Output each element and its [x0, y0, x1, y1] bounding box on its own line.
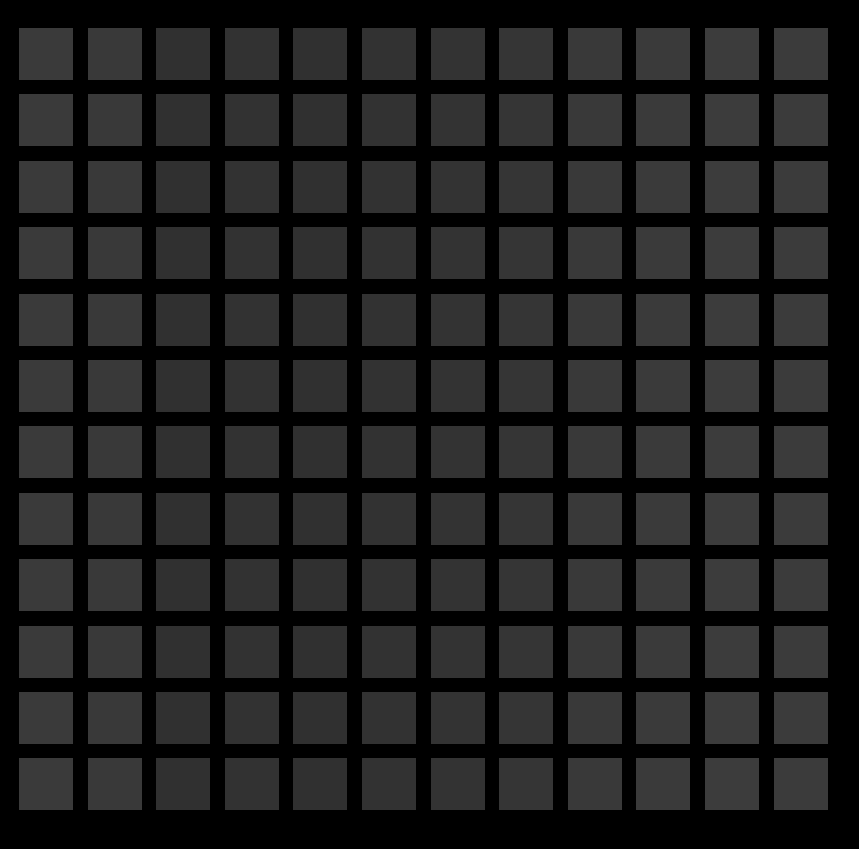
grid-cell: [636, 227, 690, 279]
grid-cell: [362, 758, 416, 810]
grid-cell: [88, 28, 142, 80]
grid-cell: [19, 227, 73, 279]
grid-cell: [431, 426, 485, 478]
grid-cell: [568, 294, 622, 346]
grid-cell: [293, 692, 347, 744]
grid-cell: [19, 426, 73, 478]
grid-cell: [362, 94, 416, 146]
grid-cell: [568, 426, 622, 478]
grid-cell: [774, 426, 828, 478]
grid-cell: [499, 227, 553, 279]
square-grid: [0, 0, 859, 849]
grid-cell: [362, 294, 416, 346]
grid-cell: [156, 161, 210, 213]
grid-cell: [293, 227, 347, 279]
grid-cell: [705, 94, 759, 146]
grid-cell: [431, 758, 485, 810]
grid-cell: [705, 360, 759, 412]
grid-cell: [636, 161, 690, 213]
grid-cell: [293, 161, 347, 213]
grid-cell: [362, 559, 416, 611]
grid-cell: [225, 758, 279, 810]
grid-cell: [499, 360, 553, 412]
grid-cell: [293, 294, 347, 346]
grid-cell: [774, 294, 828, 346]
grid-cell: [88, 426, 142, 478]
grid-cell: [88, 758, 142, 810]
grid-cell: [293, 493, 347, 545]
grid-cell: [705, 28, 759, 80]
grid-cell: [431, 559, 485, 611]
grid-cell: [293, 626, 347, 678]
grid-cell: [156, 692, 210, 744]
grid-cell: [568, 28, 622, 80]
grid-cell: [88, 94, 142, 146]
grid-cell: [88, 227, 142, 279]
grid-cell: [362, 626, 416, 678]
grid-cell: [705, 626, 759, 678]
grid-cell: [225, 227, 279, 279]
grid-cell: [774, 692, 828, 744]
grid-cell: [293, 360, 347, 412]
grid-cell: [293, 758, 347, 810]
grid-cell: [499, 758, 553, 810]
grid-cell: [156, 360, 210, 412]
grid-cell: [225, 426, 279, 478]
grid-cell: [705, 227, 759, 279]
grid-cell: [499, 559, 553, 611]
grid-cell: [156, 493, 210, 545]
grid-cell: [225, 161, 279, 213]
grid-cell: [636, 692, 690, 744]
grid-cell: [431, 161, 485, 213]
grid-cell: [225, 626, 279, 678]
grid-cell: [499, 161, 553, 213]
grid-cell: [19, 758, 73, 810]
grid-cell: [636, 758, 690, 810]
grid-cell: [362, 692, 416, 744]
grid-cell: [568, 227, 622, 279]
grid-cell: [431, 227, 485, 279]
grid-cell: [499, 493, 553, 545]
grid-cell: [19, 559, 73, 611]
grid-cell: [636, 626, 690, 678]
grid-cell: [19, 294, 73, 346]
grid-cell: [705, 758, 759, 810]
grid-cell: [636, 94, 690, 146]
grid-cell: [225, 28, 279, 80]
grid-cell: [431, 692, 485, 744]
grid-cell: [499, 626, 553, 678]
grid-cell: [19, 360, 73, 412]
grid-cell: [293, 559, 347, 611]
grid-cell: [225, 493, 279, 545]
grid-cell: [774, 161, 828, 213]
grid-cell: [156, 626, 210, 678]
grid-cell: [156, 227, 210, 279]
grid-cell: [774, 758, 828, 810]
grid-cell: [362, 493, 416, 545]
grid-cell: [431, 626, 485, 678]
grid-cell: [568, 161, 622, 213]
grid-cell: [362, 161, 416, 213]
grid-cell: [568, 626, 622, 678]
grid-cell: [774, 94, 828, 146]
grid-cell: [225, 692, 279, 744]
grid-cell: [156, 426, 210, 478]
grid-cell: [293, 28, 347, 80]
grid-cell: [568, 493, 622, 545]
grid-cell: [88, 692, 142, 744]
grid-cell: [774, 626, 828, 678]
grid-cell: [499, 294, 553, 346]
grid-cell: [293, 94, 347, 146]
grid-cell: [568, 360, 622, 412]
grid-cell: [19, 94, 73, 146]
grid-cell: [156, 28, 210, 80]
grid-cell: [225, 559, 279, 611]
grid-cell: [19, 161, 73, 213]
grid-cell: [19, 493, 73, 545]
grid-cell: [88, 559, 142, 611]
grid-cell: [705, 493, 759, 545]
grid-cell: [705, 161, 759, 213]
grid-cell: [774, 227, 828, 279]
grid-cell: [774, 360, 828, 412]
grid-cell: [19, 28, 73, 80]
